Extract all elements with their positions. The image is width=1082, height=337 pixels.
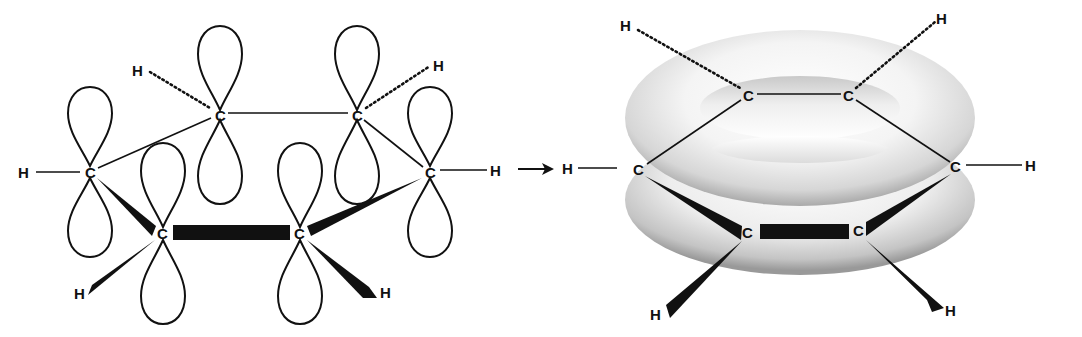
atom-c5: C — [157, 225, 168, 242]
pi-cloud-top-torus — [625, 30, 975, 206]
atom-h4: H — [490, 162, 501, 179]
atom-h6: H — [380, 284, 391, 301]
atom-c4-right: C — [950, 158, 961, 175]
reaction-arrow — [518, 163, 554, 175]
right-panel-pi-cloud-model: C C C C C C H H H H H H — [562, 10, 1036, 323]
atom-c3: C — [352, 107, 363, 124]
atom-h1: H — [18, 164, 29, 181]
atom-c1-right: C — [633, 161, 644, 178]
atom-h6-right: H — [945, 302, 956, 319]
left-panel-p-orbital-model: C C C C C C H H H H H H — [18, 26, 501, 324]
atom-c2: C — [215, 107, 226, 124]
atom-h2: H — [132, 62, 143, 79]
atom-h4-right: H — [1025, 157, 1036, 174]
atom-h3-right: H — [936, 10, 947, 27]
atom-h2-right: H — [620, 17, 631, 34]
atom-c6-right: C — [853, 222, 864, 239]
benzene-orbital-diagram: C C C C C C H H H H H H — [0, 0, 1082, 337]
atom-h3: H — [433, 57, 444, 74]
bold-bond-c5-c6 — [173, 225, 290, 240]
atom-c5-right: C — [742, 224, 753, 241]
atom-h1-right: H — [562, 160, 573, 177]
atom-c6: C — [294, 225, 305, 242]
bold-bond-c5-c6-right — [760, 224, 849, 239]
atom-c3-right: C — [843, 87, 854, 104]
atom-c2-right: C — [743, 87, 754, 104]
atom-h5-right: H — [650, 306, 661, 323]
atom-h5: H — [74, 285, 85, 302]
atom-c4: C — [425, 164, 436, 181]
dashed-bond-c2-h2 — [150, 72, 210, 108]
atom-c1: C — [85, 164, 96, 181]
carbon-labels-left: C C C C C C — [85, 107, 436, 242]
